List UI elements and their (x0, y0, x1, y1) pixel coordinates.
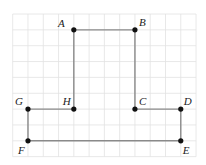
label-b: B (139, 16, 146, 28)
grid-lines (13, 14, 196, 157)
label-g: G (15, 95, 23, 107)
grid-diagram: ABCDEFGH (0, 0, 206, 165)
point-f (25, 138, 30, 143)
label-f: F (17, 144, 25, 156)
point-d (178, 107, 183, 112)
label-d: D (183, 95, 192, 107)
point-c (132, 107, 137, 112)
point-h (71, 107, 76, 112)
label-e: E (182, 144, 190, 156)
point-e (178, 138, 183, 143)
point-a (71, 27, 76, 32)
label-h: H (62, 95, 72, 107)
label-c: C (139, 95, 147, 107)
label-a: A (57, 17, 65, 29)
point-b (132, 27, 137, 32)
point-g (25, 107, 30, 112)
